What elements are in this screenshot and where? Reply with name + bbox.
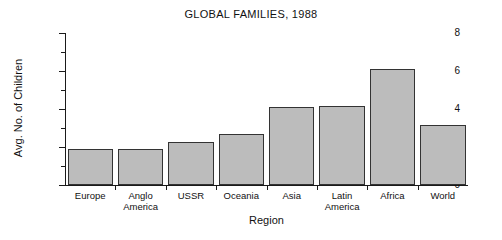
chart-figure: GLOBAL FAMILIES, 1988 Avg. No. of Childr… — [0, 0, 502, 240]
y-tick-major — [59, 109, 65, 110]
y-axis-title: Avg. No. of Children — [10, 30, 26, 185]
bar — [319, 106, 364, 185]
bar — [420, 125, 465, 185]
y-axis-line — [65, 33, 66, 186]
x-tick-label: AngloAmerica — [115, 190, 165, 212]
bar — [68, 149, 113, 185]
y-tick-label: 6 — [454, 66, 460, 76]
y-tick-major — [59, 185, 65, 186]
y-tick-label: 8 — [454, 28, 460, 38]
y-tick-minor — [61, 128, 65, 129]
plot-area: 02468 EuropeAngloAmericaUSSROceaniaAsiaL… — [65, 33, 468, 185]
x-tick-label: Oceania — [216, 190, 266, 201]
x-tick-label: Europe — [65, 190, 115, 201]
bar — [269, 107, 314, 185]
x-tick-label: USSR — [166, 190, 216, 201]
y-tick-label: 4 — [454, 104, 460, 114]
bar — [370, 69, 415, 185]
x-tick-label: Asia — [267, 190, 317, 201]
x-tick-label: World — [418, 190, 468, 201]
y-tick-minor — [61, 90, 65, 91]
x-axis-title: Region — [65, 214, 468, 226]
bar — [118, 149, 163, 185]
y-tick-major — [59, 33, 65, 34]
y-tick-minor — [61, 166, 65, 167]
bar — [219, 134, 264, 185]
chart-title: GLOBAL FAMILIES, 1988 — [0, 8, 502, 20]
y-tick-minor — [61, 52, 65, 53]
y-axis-title-text: Avg. No. of Children — [12, 58, 24, 156]
x-tick-label: LatinAmerica — [317, 190, 367, 212]
y-tick-major — [59, 71, 65, 72]
x-tick-label: Africa — [367, 190, 417, 201]
y-tick-major — [59, 147, 65, 148]
bar — [168, 142, 213, 185]
